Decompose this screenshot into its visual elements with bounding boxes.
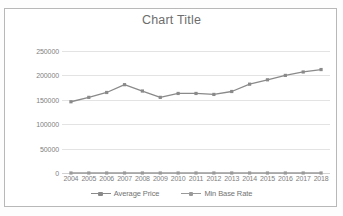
legend-item[interactable]: Average Price xyxy=(91,189,160,198)
data-point-marker[interactable] xyxy=(319,68,322,71)
data-point-marker[interactable] xyxy=(159,96,162,99)
data-point-marker[interactable] xyxy=(177,92,180,95)
x-axis-tick-label: 2006 xyxy=(99,175,114,182)
x-axis-tick-label: 2017 xyxy=(296,175,311,182)
legend-item[interactable]: Min Base Rate xyxy=(181,189,252,198)
data-point-marker[interactable] xyxy=(230,90,233,93)
data-point-marker[interactable] xyxy=(248,83,251,86)
data-point-marker[interactable] xyxy=(69,100,72,103)
data-point-marker[interactable] xyxy=(194,92,197,95)
chart-object-frame[interactable]: Chart Title 0500001000001500002000002500… xyxy=(4,8,337,207)
data-point-marker[interactable] xyxy=(212,93,215,96)
data-point-marker[interactable] xyxy=(87,96,90,99)
x-axis-tick-label: 2008 xyxy=(135,175,150,182)
x-axis-tick-label: 2015 xyxy=(260,175,275,182)
x-axis-tick-label: 2007 xyxy=(117,175,132,182)
x-axis-tick-label: 2012 xyxy=(206,175,221,182)
screenshot-page: Chart Title 0500001000001500002000002500… xyxy=(0,0,343,216)
x-axis-tick-label: 2014 xyxy=(242,175,257,182)
data-point-marker[interactable] xyxy=(266,78,269,81)
data-point-marker[interactable] xyxy=(302,70,305,73)
legend-label: Average Price xyxy=(114,189,160,198)
chart-legend[interactable]: Average PriceMin Base Rate xyxy=(5,189,338,198)
x-axis-tick-label: 2016 xyxy=(278,175,293,182)
data-point-marker[interactable] xyxy=(284,74,287,77)
data-point-marker[interactable] xyxy=(123,83,126,86)
x-axis-tick-label: 2009 xyxy=(153,175,168,182)
x-axis-tick-label: 2004 xyxy=(64,175,79,182)
plot-area: 050000100000150000200000250000 200420052… xyxy=(5,9,338,208)
legend-label: Min Base Rate xyxy=(204,189,252,198)
x-axis-tick-label: 2005 xyxy=(81,175,96,182)
data-point-marker[interactable] xyxy=(105,91,108,94)
data-point-marker[interactable] xyxy=(141,89,144,92)
x-axis[interactable]: 2004200520062007200820092010201120122013… xyxy=(62,172,330,188)
x-axis-tick-label: 2018 xyxy=(314,175,329,182)
x-axis-tick-label: 2013 xyxy=(224,175,239,182)
legend-marker-icon xyxy=(91,190,111,198)
x-axis-tick-label: 2010 xyxy=(171,175,186,182)
x-axis-tick-label: 2011 xyxy=(189,175,203,182)
series-1[interactable] xyxy=(69,68,322,103)
legend-marker-icon xyxy=(181,190,201,198)
series-line[interactable] xyxy=(71,70,321,102)
